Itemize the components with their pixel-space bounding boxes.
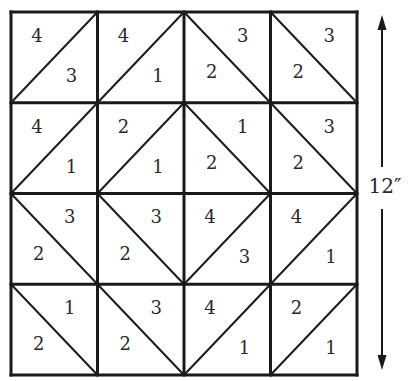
cell-r4-c1-lower-number: 2 <box>33 333 44 354</box>
dimension-label: 12″ <box>369 174 402 198</box>
dimension-arrow: 12″ <box>369 15 402 370</box>
cell-r2-c2-diagonal <box>98 103 185 194</box>
cell-r1-c2-upper-number: 4 <box>118 25 129 46</box>
cell-r3-c4-upper-number: 4 <box>291 206 302 227</box>
cell-r2-c3-upper-number: 1 <box>237 116 248 137</box>
cell-r3-c2-diagonal <box>98 194 185 285</box>
cell-r2-c2-upper-number: 2 <box>118 116 129 137</box>
cell-r4-c2-diagonal <box>98 284 185 375</box>
quilt-block-diagram: 43413232412112323232434112324121 12″ <box>0 0 416 381</box>
cell-r1-c4-lower-number: 2 <box>292 61 303 82</box>
cell-r2-c1-upper-number: 4 <box>31 116 42 137</box>
cell-r2-c3-diagonal <box>184 103 271 194</box>
cell-r1-c4-diagonal <box>271 12 358 103</box>
cell-r3-c2-lower-number: 2 <box>119 243 130 264</box>
cell-r4-c2-lower-number: 2 <box>119 333 130 354</box>
cell-r3-c3-diagonal <box>184 194 271 285</box>
cell-r4-c3-diagonal <box>184 284 271 375</box>
cell-r4-c1-upper-number: 1 <box>64 297 75 318</box>
cell-r3-c1-upper-number: 3 <box>64 206 75 227</box>
cell-r1-c1-lower-number: 3 <box>66 65 77 86</box>
cell-r1-c2-lower-number: 1 <box>152 65 163 86</box>
cell-r4-c4-upper-number: 2 <box>291 297 302 318</box>
cell-r2-c1-diagonal <box>11 103 98 194</box>
cell-r3-c2-upper-number: 3 <box>151 206 162 227</box>
cell-r4-c3-upper-number: 4 <box>204 297 215 318</box>
cell-r4-c4-diagonal <box>271 284 358 375</box>
arrow-down-icon <box>378 355 387 370</box>
cell-r4-c1-diagonal <box>11 284 98 375</box>
cell-r3-c3-upper-number: 4 <box>204 206 215 227</box>
cell-r1-c2-diagonal <box>98 12 185 103</box>
cell-r1-c3-upper-number: 3 <box>237 25 248 46</box>
cell-r2-c2-lower-number: 1 <box>152 156 163 177</box>
cell-r3-c1-lower-number: 2 <box>33 243 44 264</box>
arrow-up-icon <box>378 15 387 30</box>
cell-r1-c4-upper-number: 3 <box>324 25 335 46</box>
cell-r2-c4-upper-number: 3 <box>324 116 335 137</box>
cell-r3-c1-diagonal <box>11 194 98 285</box>
cell-r1-c3-diagonal <box>184 12 271 103</box>
cell-r4-c4-lower-number: 1 <box>325 337 336 358</box>
cell-r1-c1-diagonal <box>11 12 98 103</box>
cell-r4-c2-upper-number: 3 <box>151 297 162 318</box>
cell-r1-c1-upper-number: 4 <box>31 25 42 46</box>
cell-r3-c4-lower-number: 1 <box>325 246 336 267</box>
cell-r2-c4-lower-number: 2 <box>292 152 303 173</box>
cell-r4-c3-lower-number: 1 <box>239 337 250 358</box>
cell-r2-c3-lower-number: 2 <box>206 152 217 173</box>
cell-r3-c3-lower-number: 3 <box>239 246 250 267</box>
grid-lines <box>11 12 357 375</box>
cell-r3-c4-diagonal <box>271 194 358 285</box>
cell-r1-c3-lower-number: 2 <box>206 61 217 82</box>
cell-r2-c1-lower-number: 1 <box>66 156 77 177</box>
cell-r2-c4-diagonal <box>271 103 358 194</box>
